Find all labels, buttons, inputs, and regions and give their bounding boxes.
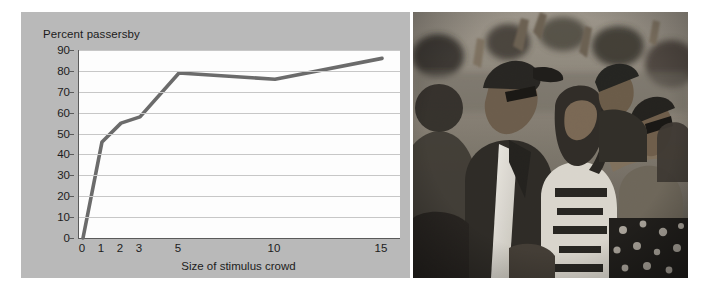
- x-axis-tick-label: 1: [98, 242, 104, 254]
- y-axis-tick-mark: [69, 196, 74, 197]
- x-axis-tick-label: 5: [175, 242, 181, 254]
- gridline: [79, 196, 400, 197]
- gridline: [79, 175, 400, 176]
- y-axis-tick-mark: [69, 71, 74, 72]
- chart-panel: Percent passersby 0102030405060708090 01…: [21, 12, 410, 278]
- x-axis-tick-label: 0: [79, 242, 85, 254]
- y-axis-tick-mark: [69, 50, 74, 51]
- gridline: [79, 50, 400, 51]
- x-axis-tick-label: 15: [375, 242, 388, 254]
- gridline: [79, 217, 400, 218]
- series-polyline: [83, 58, 382, 238]
- gridline: [79, 113, 400, 114]
- gridline: [79, 92, 400, 93]
- gridline: [79, 154, 400, 155]
- figure: Percent passersby 0102030405060708090 01…: [0, 0, 709, 292]
- gridline: [79, 134, 400, 135]
- y-axis-tick-mark: [69, 113, 74, 114]
- line-series: [79, 50, 400, 238]
- chart-title: Percent passersby: [43, 28, 140, 40]
- x-axis-title: Size of stimulus crowd: [78, 260, 399, 272]
- plot-area: [78, 50, 400, 239]
- y-axis-tick-mark: [69, 92, 74, 93]
- y-axis-tick-mark: [69, 154, 74, 155]
- crowd-photo: [413, 12, 688, 278]
- x-axis-tick-labels: 012351015: [78, 242, 399, 258]
- crowd-photo-image: [413, 12, 688, 278]
- y-axis-tick-mark: [69, 217, 74, 218]
- y-axis-tick-labels: 0102030405060708090: [21, 50, 74, 238]
- y-axis-tick-mark: [69, 175, 74, 176]
- x-axis-tick-label: 10: [268, 242, 281, 254]
- x-axis-tick-label: 2: [117, 242, 123, 254]
- y-axis-tick-mark: [69, 238, 74, 239]
- x-axis-tick-label: 3: [136, 242, 142, 254]
- y-axis-tick-mark: [69, 134, 74, 135]
- gridline: [79, 71, 400, 72]
